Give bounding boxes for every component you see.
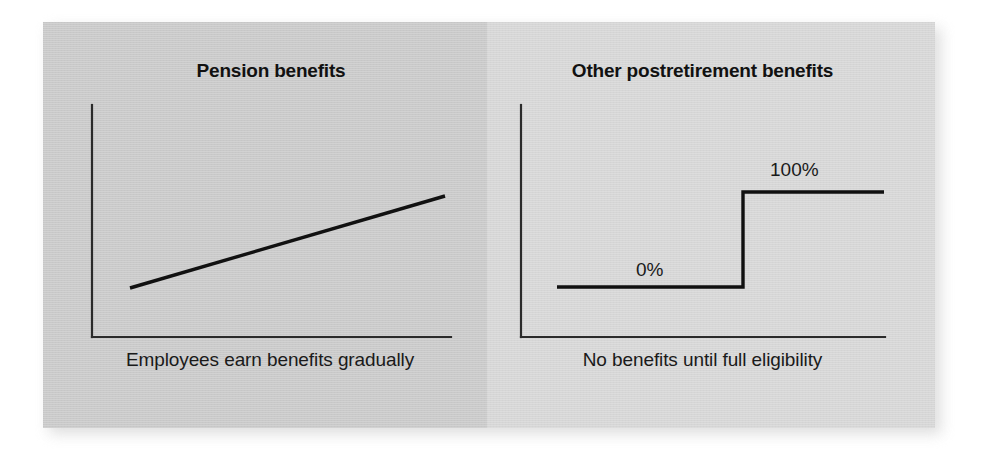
benefits-comparison-figure: Pension benefits Other postretirement be… xyxy=(0,0,988,456)
pension-chart-title: Pension benefits xyxy=(92,60,450,82)
opeb-hundred-percent-label: 100% xyxy=(770,159,819,181)
pension-accrual-line xyxy=(130,196,445,288)
opeb-chart-title: Other postretirement benefits xyxy=(521,60,884,82)
opeb-chart-caption: No benefits until full eligibility xyxy=(515,349,890,371)
opeb-step-line xyxy=(557,192,884,287)
opeb-zero-percent-label: 0% xyxy=(636,259,663,281)
pension-chart-caption: Employees earn benefits gradually xyxy=(80,349,460,371)
